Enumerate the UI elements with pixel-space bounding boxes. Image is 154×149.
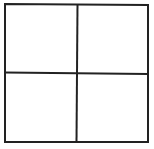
cell-top-right — [78, 5, 148, 74]
cell-top-left — [6, 5, 77, 73]
grid-diagram — [0, 0, 154, 149]
cell-bottom-right — [77, 75, 148, 142]
cell-bottom-left — [6, 74, 76, 142]
grid-svg — [0, 0, 154, 149]
